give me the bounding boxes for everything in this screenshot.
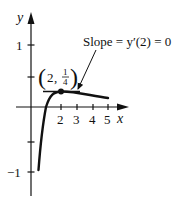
y-axis-arrow-icon xyxy=(28,12,35,24)
point-label: ( 2 , 1 4 ) xyxy=(38,64,78,90)
point-label-x: 2 xyxy=(47,70,54,85)
y-tick-label-neg-1: −1 xyxy=(7,165,21,180)
point-label-comma: , xyxy=(54,70,57,85)
slope-annotation: Slope = y′(2) = 0 xyxy=(83,34,171,49)
x-tick-label-4: 4 xyxy=(89,112,96,127)
point-label-close-paren: ) xyxy=(70,64,78,90)
point-label-open-paren: ( xyxy=(38,64,46,90)
y-tick-label-1: 1 xyxy=(16,38,23,53)
function-curve xyxy=(39,91,109,170)
x-axis xyxy=(16,104,129,111)
y-axis xyxy=(28,12,35,196)
x-tick-label-5: 5 xyxy=(104,112,111,127)
x-tick-label-2: 2 xyxy=(57,112,64,127)
point-label-numerator: 1 xyxy=(63,67,68,77)
graph-figure: y x 2 3 4 5 1 −1 ( 2 , 1 4 ) Slope = y′(… xyxy=(0,0,181,202)
x-axis-label: x xyxy=(116,111,124,126)
x-axis-arrow-icon xyxy=(117,104,129,111)
point-label-denominator: 4 xyxy=(63,77,68,87)
annotation-leader-line xyxy=(78,50,96,89)
maximum-point xyxy=(58,89,64,95)
x-tick-label-3: 3 xyxy=(73,112,80,127)
y-axis-label: y xyxy=(15,10,24,25)
